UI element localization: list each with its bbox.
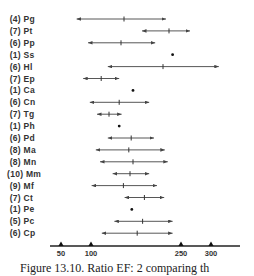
row-label: (1) Pe xyxy=(7,204,35,214)
range-row-hl xyxy=(108,64,219,69)
range-row-mm xyxy=(113,171,150,176)
range-chart xyxy=(0,0,254,276)
tick-label: 250 xyxy=(175,249,188,258)
row-label: (10) Mm xyxy=(7,169,41,179)
row-label: (6) Cn xyxy=(7,97,36,107)
row-label: (6) Pp xyxy=(7,38,35,48)
row-label: (7) Tg xyxy=(7,109,35,119)
row-label: (1) Ca xyxy=(7,85,35,95)
single-value-dot xyxy=(118,125,121,128)
range-row-ct xyxy=(125,195,165,200)
data-rows xyxy=(77,17,219,236)
range-row-cp xyxy=(102,231,173,236)
range-row-pc xyxy=(114,219,172,224)
row-label: (5) Pc xyxy=(7,216,35,226)
range-row-cn xyxy=(90,100,149,105)
row-label: (7) Pt xyxy=(7,26,33,36)
x-axis xyxy=(50,242,240,247)
range-row-ss xyxy=(171,53,174,56)
figure-caption: Figure 13.10. Ratio EF: 2 comparing th xyxy=(20,261,209,276)
row-label: (7) Ep xyxy=(7,74,35,84)
tick-label: 50 xyxy=(57,249,65,258)
tick-label: 100 xyxy=(85,249,98,258)
range-row-pt xyxy=(142,28,190,33)
range-row-tg xyxy=(97,112,122,117)
row-label: (1) Ss xyxy=(7,50,35,60)
row-label: (6) Cp xyxy=(7,228,36,238)
row-label: (4) Pg xyxy=(7,14,35,24)
range-row-ph xyxy=(118,125,121,128)
row-label: (8) Mn xyxy=(7,157,36,167)
row-label: (8) Ma xyxy=(7,145,36,155)
tick-triangle-icon xyxy=(88,242,93,247)
row-label: (6) Pd xyxy=(7,133,35,143)
range-row-pe xyxy=(130,208,133,211)
tick-triangle-icon xyxy=(208,242,213,247)
range-row-mf xyxy=(92,183,157,188)
tick-triangle-icon xyxy=(58,242,63,247)
range-row-ma xyxy=(96,147,165,152)
range-row-ep xyxy=(83,76,119,81)
range-row-ca xyxy=(132,89,135,92)
row-label: (6) Hl xyxy=(7,62,33,72)
range-row-pp xyxy=(88,40,155,45)
row-label: (7) Ct xyxy=(7,193,33,203)
single-value-dot xyxy=(132,89,135,92)
tick-label: 300 xyxy=(205,249,218,258)
range-row-mn xyxy=(100,159,168,164)
row-label: (1) Ph xyxy=(7,121,35,131)
single-value-dot xyxy=(130,208,133,211)
tick-triangle-icon xyxy=(178,242,183,247)
single-value-dot xyxy=(171,53,174,56)
row-label: (9) Mf xyxy=(7,181,34,191)
range-row-pd xyxy=(108,136,154,141)
range-row-pg xyxy=(77,17,166,22)
